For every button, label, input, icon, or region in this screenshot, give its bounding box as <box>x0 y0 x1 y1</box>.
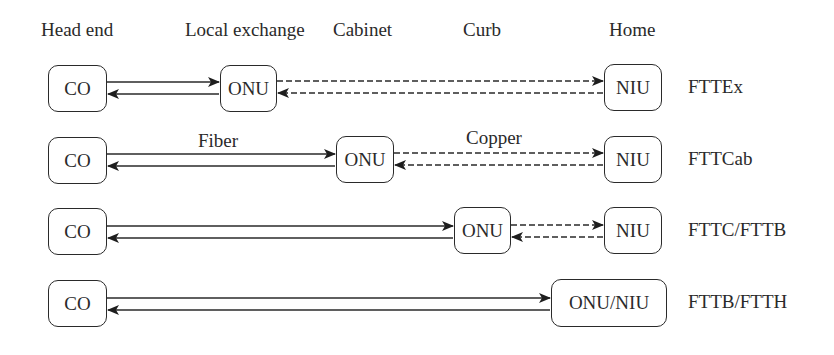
co-node: CO <box>48 137 107 184</box>
onu-niu-node: ONU/NIU <box>551 279 667 327</box>
niu-node: NIU <box>604 64 662 111</box>
row-label-fttb-ftth: FTTB/FTTH <box>688 291 787 313</box>
row-label-fttex: FTTEx <box>688 76 743 98</box>
row-label-fttc-fttb: FTTC/FTTB <box>688 219 786 241</box>
copper-label: Copper <box>466 127 522 149</box>
row-label-fttcab: FTTCab <box>688 148 752 170</box>
onu-node: ONU <box>220 65 277 112</box>
co-node: CO <box>48 208 107 255</box>
niu-node: NIU <box>604 207 662 254</box>
fiber-label: Fiber <box>198 130 238 152</box>
onu-node: ONU <box>454 207 511 254</box>
co-node: CO <box>48 65 107 112</box>
onu-node: ONU <box>336 136 394 183</box>
niu-node: NIU <box>604 136 662 183</box>
co-node: CO <box>48 280 107 327</box>
